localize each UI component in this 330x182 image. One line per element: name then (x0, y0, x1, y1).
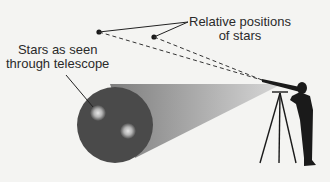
stars-seen-pointer (66, 75, 93, 107)
stars-seen-label: Stars as seen through telescope (6, 43, 109, 71)
label-line-1: Relative positions (189, 15, 291, 29)
relative-positions-pointer-1 (99, 22, 188, 32)
sight-line-2 (154, 37, 262, 80)
star-glow-1 (90, 105, 106, 121)
label-line-2: of stars (189, 29, 291, 43)
relative-positions-label: Relative positions of stars (189, 15, 291, 43)
telescope-view-circle (77, 87, 153, 163)
label-line-1: Stars as seen (6, 43, 109, 57)
star-glow-2 (120, 123, 136, 139)
tripod (260, 92, 296, 163)
label-line-2: through telescope (6, 57, 109, 71)
